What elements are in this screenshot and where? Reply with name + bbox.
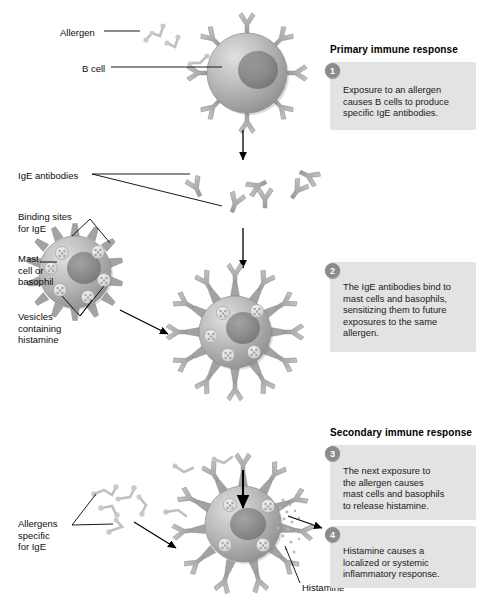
step-2-badge: 2	[325, 263, 340, 278]
heading-primary-immune-response: Primary immune response	[330, 44, 458, 55]
label-allergen: Allergen	[60, 27, 95, 39]
step-2-text: The IgE antibodies bind to mast cells an…	[343, 282, 475, 340]
heading-secondary-immune-response: Secondary immune response	[330, 427, 472, 438]
label-b-cell: B cell	[82, 63, 105, 75]
step-1-text: Exposure to an allergen causes B cells t…	[343, 85, 473, 120]
leader-lines-ige	[92, 174, 222, 206]
allergen-knobs-bottom	[91, 457, 216, 535]
allergen-particles-top	[146, 27, 206, 63]
step-3-text: The next exposure to the allergen causes…	[343, 466, 475, 512]
degranulating-cell-nucleus	[230, 508, 266, 540]
label-binding-sites: Binding sites for IgE	[18, 211, 72, 234]
label-allergens-specific: Allergens specific for IgE	[18, 518, 58, 553]
allergen-binding-arrow	[134, 522, 176, 548]
figure-canvas: Allergen B cell IgE antibodies Binding s…	[0, 0, 485, 598]
label-vesicles: Vesicles containing histamine	[18, 311, 61, 346]
step-1-badge: 1	[325, 63, 340, 78]
label-mast-cell: Mast cell or basophil	[18, 253, 53, 288]
step-4-badge: 4	[325, 527, 340, 542]
b-cell-group	[187, 13, 308, 134]
flow-arrow-3	[120, 310, 168, 334]
sensitized-mast-cell-group	[166, 263, 304, 401]
step-3-badge: 3	[325, 446, 340, 461]
free-ige-antibodies	[184, 165, 322, 215]
step-4-text: Histamine causes a localized or systemic…	[343, 546, 475, 581]
label-ige-antibodies: IgE antibodies	[18, 170, 78, 182]
